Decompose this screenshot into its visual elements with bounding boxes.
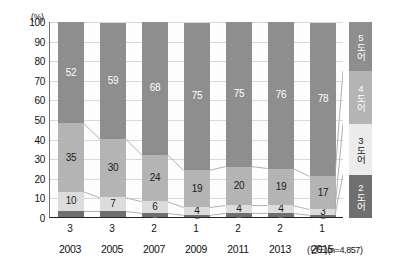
legend-label: 3도어 bbox=[356, 135, 366, 165]
x-axis-label-2005: 2005 bbox=[101, 243, 123, 255]
x-axis-subvalue-2015: 1 bbox=[319, 223, 324, 234]
y-axis-tick-80: 80 bbox=[0, 56, 45, 67]
bar-segment-4도어-2009[interactable]: 19 bbox=[184, 170, 210, 207]
legend-item-5도어[interactable]: 5도어 bbox=[349, 22, 372, 71]
bar-value-label: 76 bbox=[276, 90, 287, 100]
y-axis-tick-60: 60 bbox=[0, 95, 45, 106]
bar-segment-5도어-2013[interactable]: 76 bbox=[268, 22, 294, 169]
bar-value-label: 78 bbox=[318, 94, 329, 104]
y-axis-tick-70: 70 bbox=[0, 75, 45, 86]
legend-item-4도어[interactable]: 4도어 bbox=[349, 71, 372, 124]
legend-label: 5도어 bbox=[356, 32, 366, 62]
x-axis-subvalue-2009: 1 bbox=[193, 223, 198, 234]
bar-value-label: 59 bbox=[108, 76, 119, 86]
legend-label: 2도어 bbox=[356, 182, 366, 212]
bar-value-label: 68 bbox=[150, 83, 161, 93]
bar-value-label: 4 bbox=[236, 204, 241, 214]
bar-2007[interactable]: 262468 bbox=[142, 22, 168, 217]
x-axis-label-2003: 2003 bbox=[59, 243, 81, 255]
bar-segment-2도어-2005[interactable]: 3 bbox=[100, 211, 126, 217]
y-axis-tick-40: 40 bbox=[0, 134, 45, 145]
bar-value-label: 35 bbox=[66, 153, 77, 163]
y-axis-tick-10: 10 bbox=[0, 193, 45, 204]
y-axis-tick-50: 50 bbox=[0, 115, 45, 126]
bar-value-label: 75 bbox=[234, 89, 245, 99]
bar-segment-2도어-2009[interactable]: 1 bbox=[184, 215, 210, 217]
bar-2011[interactable]: 242075 bbox=[226, 22, 252, 217]
bar-segment-3도어-2003[interactable]: 10 bbox=[58, 192, 84, 212]
bar-segment-3도어-2011[interactable]: 4 bbox=[226, 205, 252, 213]
x-axis-subvalue-2003: 3 bbox=[67, 223, 72, 234]
x-axis-subvalue-2011: 2 bbox=[235, 223, 240, 234]
bar-value-label: 20 bbox=[234, 181, 245, 191]
bar-segment-3도어-2009[interactable]: 4 bbox=[184, 207, 210, 215]
x-axis-subvalue-2013: 2 bbox=[277, 223, 282, 234]
bar-segment-5도어-2007[interactable]: 68 bbox=[142, 22, 168, 155]
bar-segment-2도어-2003[interactable]: 3 bbox=[58, 211, 84, 217]
bar-value-label: 19 bbox=[192, 184, 203, 194]
bar-segment-2도어-2011[interactable]: 2 bbox=[226, 213, 252, 217]
bar-value-label: 7 bbox=[110, 199, 115, 209]
bar-value-label: 4 bbox=[194, 206, 199, 216]
bar-value-label: 6 bbox=[152, 202, 157, 212]
x-axis-label-2009: 2009 bbox=[185, 243, 207, 255]
bar-segment-5도어-2005[interactable]: 59 bbox=[100, 23, 126, 139]
x-axis-label-2007: 2007 bbox=[143, 243, 165, 255]
y-axis-tick-100: 100 bbox=[0, 17, 45, 28]
bar-segment-3도어-2007[interactable]: 6 bbox=[142, 201, 168, 213]
bar-value-label: 30 bbox=[108, 163, 119, 173]
bar-segment-4도어-2015[interactable]: 17 bbox=[310, 176, 336, 209]
x-axis-note: (년도)(n=4,857) bbox=[307, 243, 363, 256]
x-axis-label-2011: 2011 bbox=[227, 243, 248, 255]
legend-item-2도어[interactable]: 2도어 bbox=[349, 175, 372, 218]
bar-value-label: 4 bbox=[278, 204, 283, 214]
bar-2005[interactable]: 373059 bbox=[100, 22, 126, 217]
bar-value-label: 24 bbox=[150, 173, 161, 183]
legend-item-3도어[interactable]: 3도어 bbox=[349, 124, 372, 175]
bar-segment-3도어-2005[interactable]: 7 bbox=[100, 197, 126, 211]
bar-segment-5도어-2009[interactable]: 75 bbox=[184, 23, 210, 170]
bar-value-label: 19 bbox=[276, 182, 287, 192]
x-axis-subvalue-2007: 2 bbox=[151, 223, 156, 234]
y-axis-tick-20: 20 bbox=[0, 173, 45, 184]
bar-segment-4도어-2013[interactable]: 19 bbox=[268, 169, 294, 206]
bar-segment-2도어-2015[interactable]: 1 bbox=[310, 215, 336, 217]
legend: 5도어4도어3도어2도어 bbox=[349, 22, 372, 218]
bar-group: 3103552373059262468141975242075241976131… bbox=[50, 22, 343, 217]
bar-2013[interactable]: 241976 bbox=[268, 22, 294, 217]
bar-segment-4도어-2011[interactable]: 20 bbox=[226, 167, 252, 206]
bar-segment-2도어-2013[interactable]: 2 bbox=[268, 213, 294, 217]
bar-segment-5도어-2015[interactable]: 78 bbox=[310, 23, 336, 176]
bar-segment-3도어-2015[interactable]: 3 bbox=[310, 209, 336, 215]
bar-2015[interactable]: 131778 bbox=[310, 22, 336, 217]
y-axis-tick-30: 30 bbox=[0, 154, 45, 165]
bar-segment-5도어-2011[interactable]: 75 bbox=[226, 22, 252, 167]
bar-2009[interactable]: 141975 bbox=[184, 22, 210, 217]
legend-label: 4도어 bbox=[356, 83, 366, 113]
bar-segment-2도어-2007[interactable]: 2 bbox=[142, 213, 168, 217]
bar-value-label: 75 bbox=[192, 91, 203, 101]
bar-segment-3도어-2013[interactable]: 4 bbox=[268, 205, 294, 213]
bar-segment-5도어-2003[interactable]: 52 bbox=[58, 22, 84, 123]
bar-2003[interactable]: 3103552 bbox=[58, 22, 84, 217]
bar-segment-4도어-2003[interactable]: 35 bbox=[58, 123, 84, 191]
bar-segment-4도어-2005[interactable]: 30 bbox=[100, 139, 126, 198]
x-axis-label-2013: 2013 bbox=[269, 243, 291, 255]
x-axis-subvalue-2005: 3 bbox=[109, 223, 114, 234]
y-axis-tick-0: 0 bbox=[0, 213, 45, 224]
bar-segment-4도어-2007[interactable]: 24 bbox=[142, 155, 168, 202]
y-axis-tick-90: 90 bbox=[0, 36, 45, 47]
stacked-bar-chart: (%) 1009080706050403020100 3103552373059… bbox=[0, 0, 395, 268]
bar-value-label: 52 bbox=[66, 68, 77, 78]
plot-area: 3103552373059262468141975242075241976131… bbox=[49, 22, 343, 218]
bar-value-label: 17 bbox=[318, 188, 329, 198]
bar-value-label: 10 bbox=[66, 196, 77, 206]
